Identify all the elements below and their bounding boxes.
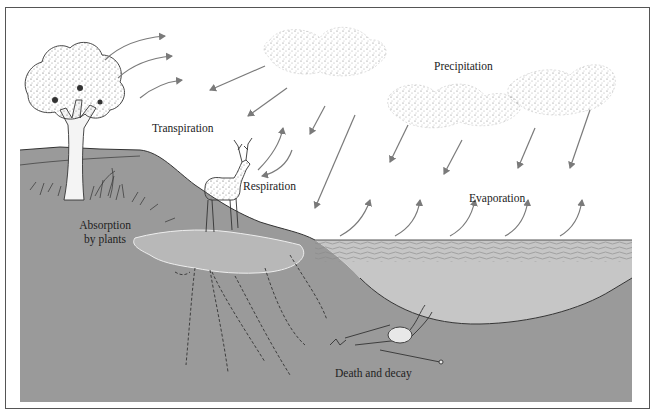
evaporation-arrows [340, 200, 582, 236]
clouds [264, 27, 615, 127]
label-absorption: Absorption by plants [50, 218, 160, 246]
respiration-arrows [258, 128, 292, 176]
label-respiration: Respiration [243, 179, 296, 193]
label-evaporation: Evaporation [469, 191, 525, 205]
label-precipitation: Precipitation [434, 59, 493, 73]
label-absorption-line2: by plants [50, 232, 160, 246]
label-death-decay: Death and decay [335, 366, 412, 380]
label-transpiration: Transpiration [152, 121, 214, 135]
water-cycle-illustration [0, 0, 654, 416]
lake-surface [315, 240, 632, 262]
label-absorption-line1: Absorption [50, 218, 160, 232]
